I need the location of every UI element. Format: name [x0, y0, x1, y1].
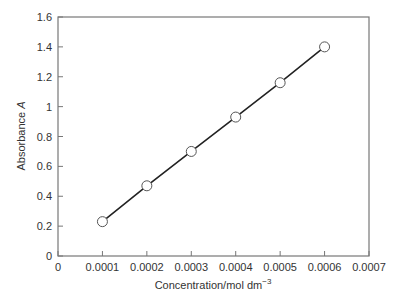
data-point-marker: [275, 78, 285, 88]
y-tick-label: 1.6: [37, 11, 52, 23]
x-tick-label: 0: [55, 261, 61, 273]
y-axis-title: Absorbance A: [15, 101, 27, 170]
data-line: [102, 47, 324, 222]
x-tick-label: 0.0005: [263, 261, 297, 273]
y-tick-label: 1.2: [37, 71, 52, 83]
y-tick-label: 0.8: [37, 131, 52, 143]
y-tick-label: 0.6: [37, 160, 52, 172]
data-point-marker: [231, 112, 241, 122]
x-axis-title: Concentration/mol dm−3: [155, 277, 272, 291]
x-tick-label: 0.0003: [174, 261, 208, 273]
x-axis-ticks: 00.00010.00020.00030.00040.00050.00060.0…: [55, 251, 386, 273]
x-tick-label: 0.0001: [86, 261, 120, 273]
data-point-marker: [320, 42, 330, 52]
absorbance-chart: 00.00010.00020.00030.00040.00050.00060.0…: [0, 0, 404, 303]
y-tick-label: 1: [46, 101, 52, 113]
y-tick-label: 0.2: [37, 220, 52, 232]
x-tick-label: 0.0004: [219, 261, 253, 273]
data-point-marker: [142, 181, 152, 191]
x-tick-label: 0.0002: [130, 261, 164, 273]
data-point-marker: [97, 217, 107, 227]
y-axis-ticks: 00.20.40.60.811.21.41.6: [37, 11, 63, 262]
x-tick-label: 0.0006: [308, 261, 342, 273]
y-tick-label: 0.4: [37, 190, 52, 202]
data-point-marker: [186, 146, 196, 156]
x-tick-label: 0.0007: [352, 261, 386, 273]
y-tick-label: 1.4: [37, 41, 52, 53]
y-tick-label: 0: [46, 250, 52, 262]
series-line: [102, 47, 324, 222]
